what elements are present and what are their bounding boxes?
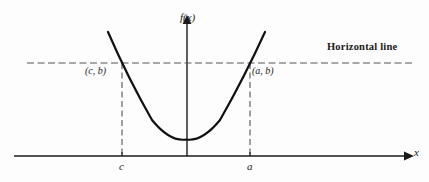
parabola-figure: f(x) x c a (c, b) (a, b) Horizontal line: [0, 0, 429, 182]
x-axis-arrowhead: [404, 152, 414, 161]
point-label-left: (c, b): [85, 66, 106, 76]
x-tick-label-c: c: [119, 161, 124, 172]
point-label-right: (a, b): [252, 66, 274, 76]
figure-canvas: [0, 0, 429, 182]
x-axis-label: x: [414, 147, 419, 158]
x-tick-label-a: a: [247, 161, 253, 172]
y-axis-label: f(x): [180, 12, 195, 23]
horizontal-line-annotation: Horizontal line: [327, 42, 397, 53]
